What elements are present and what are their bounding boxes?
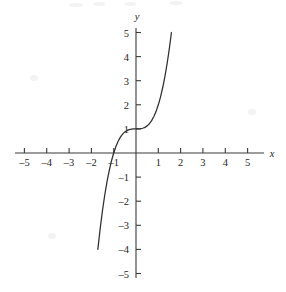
y-tick-label: 5: [124, 28, 129, 39]
x-tick-label: –3: [63, 157, 75, 168]
x-tick-label: –1: [107, 157, 119, 168]
y-tick-label: 2: [124, 100, 129, 111]
cubic-function-plot: –5 –4 –3 –2 –1 1 2 3 4 5 5 4 3 2 1 –1 –2…: [0, 0, 286, 292]
x-tick-label: 1: [156, 157, 161, 168]
plot-background: [0, 0, 286, 292]
y-tick-label: –3: [118, 220, 130, 231]
y-tick-label: –1: [118, 172, 130, 183]
x-tick-label: –2: [85, 157, 97, 168]
y-tick-label: –4: [118, 244, 130, 255]
x-tick-label: –4: [40, 157, 52, 168]
x-tick-label: 5: [245, 157, 250, 168]
x-tick-label: 4: [223, 157, 229, 168]
y-tick-label: 3: [124, 76, 129, 87]
x-tick-label: 2: [178, 157, 183, 168]
x-tick-label: 3: [200, 157, 205, 168]
x-tick-label: –5: [18, 157, 30, 168]
y-tick-label: 4: [124, 52, 130, 63]
y-tick-label: –2: [118, 196, 130, 207]
y-axis-label: y: [134, 11, 140, 22]
y-tick-label: –5: [118, 269, 130, 280]
x-axis-label: x: [269, 148, 275, 159]
